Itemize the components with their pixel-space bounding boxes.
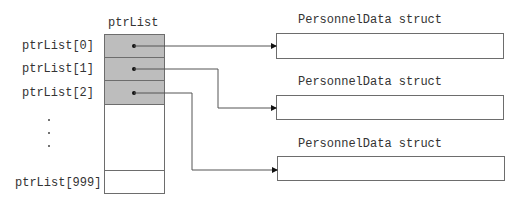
struct-label-0: PersonnelData struct: [298, 13, 442, 27]
struct-box-1: [276, 95, 504, 120]
ellipsis-dot: [48, 145, 50, 147]
struct-label-2: PersonnelData struct: [298, 137, 442, 151]
array-cell-middle: [104, 104, 165, 171]
struct-box-2: [277, 156, 505, 181]
struct-box-0: [276, 33, 504, 59]
index-label-999: ptrList[999]: [15, 176, 101, 190]
pointer-dot-0: [132, 44, 136, 48]
ellipsis-dot: [48, 132, 50, 134]
index-label-1: ptrList[1]: [22, 62, 94, 76]
ellipsis-dot: [48, 119, 50, 121]
array-cell-999: [104, 170, 165, 194]
pointer-dot-1: [132, 67, 136, 71]
pointer-dot-2: [132, 91, 136, 95]
index-label-2: ptrList[2]: [22, 86, 94, 100]
array-title: ptrList: [108, 16, 158, 30]
index-label-0: ptrList[0]: [22, 39, 94, 53]
struct-label-1: PersonnelData struct: [298, 75, 442, 89]
